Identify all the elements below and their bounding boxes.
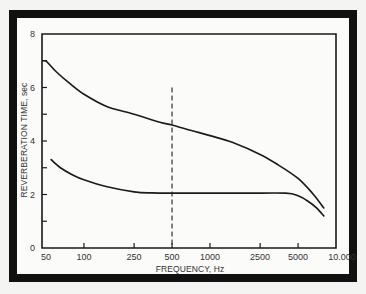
y-tick-label: 6: [30, 83, 35, 93]
y-axis-title: REVERBERATION TIME, sec: [19, 82, 29, 198]
x-tick-label: 5000: [288, 252, 308, 262]
x-tick-label: 2500: [250, 252, 270, 262]
x-tick-label: 10.000: [328, 252, 356, 262]
y-tick-label: 4: [30, 136, 35, 146]
series-group: [42, 61, 324, 248]
x-tick-label: 100: [76, 252, 91, 262]
x-tick-label: 250: [127, 252, 142, 262]
y-tick-label: 0: [30, 243, 35, 253]
x-tick-label: 1000: [200, 252, 220, 262]
x-tick-label: 500: [165, 252, 180, 262]
tick-labels: 024685010025050010002500500010.000: [30, 29, 356, 262]
upper-curve: [46, 61, 324, 208]
plot-border: [42, 34, 336, 248]
axes: [42, 34, 336, 248]
y-tick-label: 8: [30, 29, 35, 39]
reverberation-chart: 024685010025050010002500500010.000 FREQU…: [0, 0, 366, 294]
x-axis-title: FREQUENCY, Hz: [156, 264, 225, 274]
y-tick-label: 2: [30, 190, 35, 200]
x-tick-label: 50: [41, 252, 51, 262]
